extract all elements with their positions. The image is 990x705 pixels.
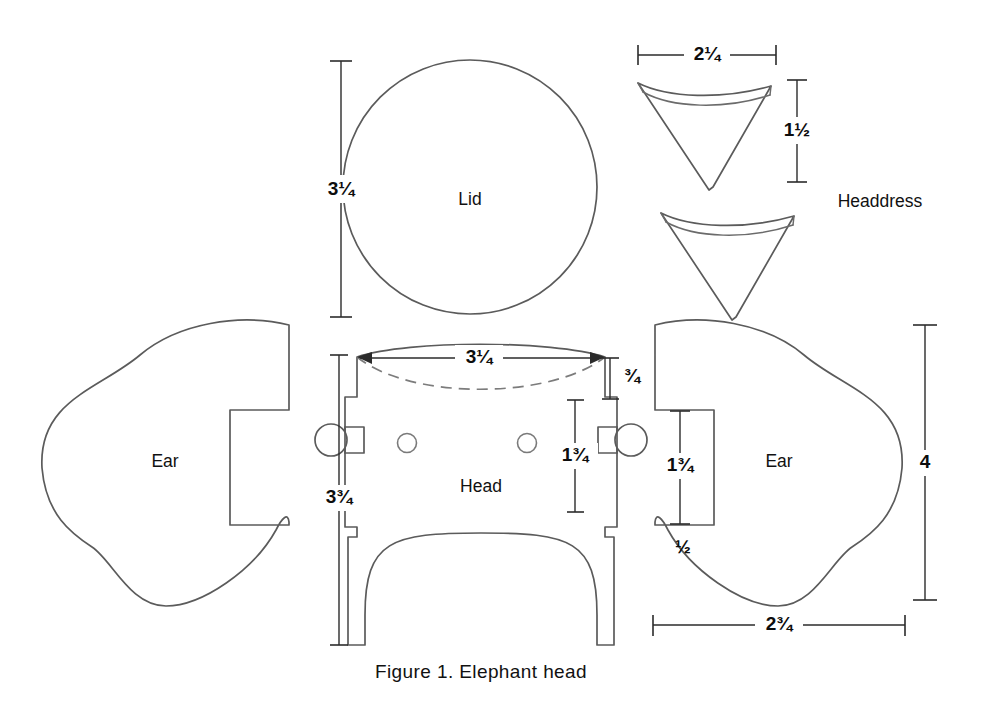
ear-left-label: Ear <box>151 451 178 471</box>
dimension-headdress-height: 1½ <box>778 80 818 182</box>
dim-label-lid-height: 3¼ <box>328 178 357 199</box>
headdress-top-band-right-edge <box>770 86 771 95</box>
head-right-tab-knob <box>615 424 647 456</box>
dimension-headdress-width: 2¼ <box>638 42 776 68</box>
dim-label-head-top-width: 3¼ <box>466 346 495 367</box>
dim-label-ear-tab-height: 1¾ <box>667 454 696 475</box>
head-label: Head <box>460 476 502 496</box>
lid-outline <box>343 60 597 314</box>
piece-ear-left: Ear <box>42 320 289 606</box>
dimension-head-top-band: ¾ <box>602 358 642 399</box>
dimension-ear-tab-height: 1¾ <box>657 411 703 524</box>
headdress-bottom-band-right-edge <box>793 216 794 225</box>
dim-label-headdress-width: 2¼ <box>694 43 723 64</box>
dimension-ear-width: 2¾ <box>653 612 905 638</box>
dim-label-head-top-band: ¾ <box>624 365 642 386</box>
lid-label: Lid <box>458 189 481 209</box>
dim-label-ear-tab-depth: ½ <box>675 536 691 557</box>
head-hole-left <box>398 434 417 453</box>
dim-label-head-side-tab: 1¾ <box>562 444 591 465</box>
piece-headdress-top <box>638 83 771 190</box>
piece-head: Head <box>315 344 647 645</box>
figure-page: Lid 3¼ 2¼ <box>0 0 990 705</box>
dimension-ear-tab-depth: ½ <box>675 536 691 557</box>
elephant-head-pattern-diagram: Lid 3¼ 2¼ <box>0 0 990 705</box>
dim-label-head-total-height: 3¾ <box>326 486 355 507</box>
figure-caption: Figure 1. Elephant head <box>375 661 587 682</box>
head-hole-right <box>518 434 537 453</box>
dimension-ear-total-height: 4 <box>908 325 942 600</box>
dimension-lid-height: 3¼ <box>320 61 362 317</box>
headdress-label: Headdress <box>838 191 923 211</box>
dim-label-ear-total-height: 4 <box>920 451 931 472</box>
piece-lid: Lid <box>343 60 597 314</box>
dim-label-headdress-height: 1½ <box>784 119 810 140</box>
dim-label-ear-width: 2¾ <box>766 613 795 634</box>
head-left-tab-neck <box>345 427 364 453</box>
ear-right-label: Ear <box>765 451 792 471</box>
head-left-tab-knob <box>315 424 347 456</box>
piece-headdress-bottom <box>661 213 794 320</box>
